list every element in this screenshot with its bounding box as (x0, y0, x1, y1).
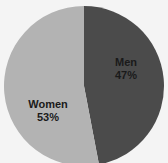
men-label: Men (115, 56, 137, 68)
pie-slice-men (84, 6, 164, 163)
pie-chart: Men 47% Women 53% (0, 0, 168, 163)
women-percent: 53% (37, 111, 59, 123)
women-label: Women (28, 98, 68, 110)
pie-chart-svg: Men 47% Women 53% (0, 0, 168, 163)
pie-slices (4, 6, 164, 163)
men-percent: 47% (115, 69, 137, 81)
